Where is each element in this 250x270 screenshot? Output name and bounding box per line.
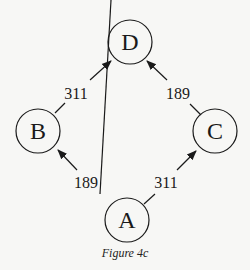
node-a: A [105, 198, 149, 242]
node-label-c: C [207, 118, 223, 144]
graph-diagram: 311 189 189 311 D B C A [0, 0, 250, 270]
edge-c-d: 189 [147, 61, 201, 115]
edge-a-c: 311 [144, 151, 196, 204]
figure-caption: Figure 4c [0, 246, 250, 261]
edge-weight-c-d: 189 [166, 85, 190, 102]
edge-weight-b-d: 311 [64, 85, 87, 102]
edge-weight-a-c: 311 [154, 174, 177, 191]
node-b: B [16, 109, 60, 153]
node-c: C [193, 109, 237, 153]
node-label-d: D [121, 29, 138, 55]
node-label-b: B [30, 118, 46, 144]
node-d: D [108, 20, 152, 64]
edge-weight-a-b: 189 [74, 174, 98, 191]
node-label-a: A [118, 207, 136, 233]
edge-b-d: 311 [55, 61, 111, 113]
